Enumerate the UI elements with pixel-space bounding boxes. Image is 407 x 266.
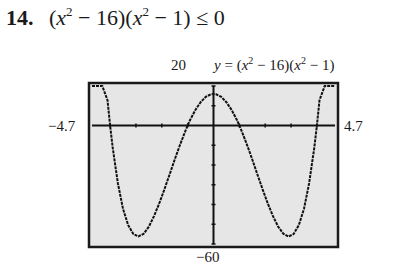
calculator-graph [0,0,407,256]
